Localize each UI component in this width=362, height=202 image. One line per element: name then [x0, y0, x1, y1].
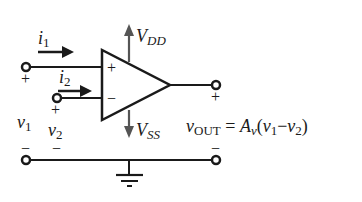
- vss-supply-arrow: [124, 110, 134, 138]
- label-i1: i1: [38, 28, 50, 50]
- ground-rail: [22, 156, 220, 164]
- output-equation: vOUT = Av(v1−v2): [186, 116, 308, 138]
- label-v1: v1: [17, 112, 32, 134]
- label-v1-plus: +: [21, 70, 30, 87]
- label-v2-minus: −: [52, 140, 61, 157]
- label-out-minus: −: [211, 140, 220, 157]
- label-v1-minus: −: [21, 140, 30, 157]
- label-i2: i2: [59, 67, 71, 89]
- label-vdd: VDD: [136, 26, 166, 48]
- label-v2: v2: [48, 120, 63, 142]
- label-v2-plus: +: [51, 101, 60, 118]
- label-vss: VSS: [136, 120, 161, 142]
- vdd-supply-arrow: [124, 24, 134, 62]
- label-out-plus: +: [211, 88, 220, 105]
- op-amp-circuit: i1 i2 VDD VSS + − + v1 − + v2 − + − vOUT…: [0, 0, 362, 202]
- ground-symbol: [116, 160, 143, 186]
- label-plus-input: +: [107, 59, 116, 76]
- inverting-input-wire: [53, 94, 102, 102]
- label-minus-input: −: [107, 90, 116, 107]
